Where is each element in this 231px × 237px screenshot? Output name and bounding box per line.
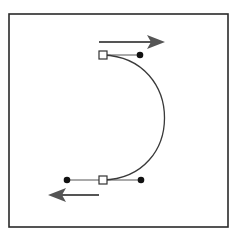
bottom-anchor-point[interactable] — [99, 176, 107, 184]
diagram-svg — [0, 0, 231, 237]
bottom-left-handle-point[interactable] — [64, 177, 71, 184]
top-handle-point[interactable] — [137, 52, 144, 59]
top-anchor-point[interactable] — [99, 51, 107, 59]
bezier-diagram — [0, 0, 231, 237]
bottom-right-handle-point[interactable] — [138, 177, 145, 184]
frame-border — [9, 14, 228, 227]
